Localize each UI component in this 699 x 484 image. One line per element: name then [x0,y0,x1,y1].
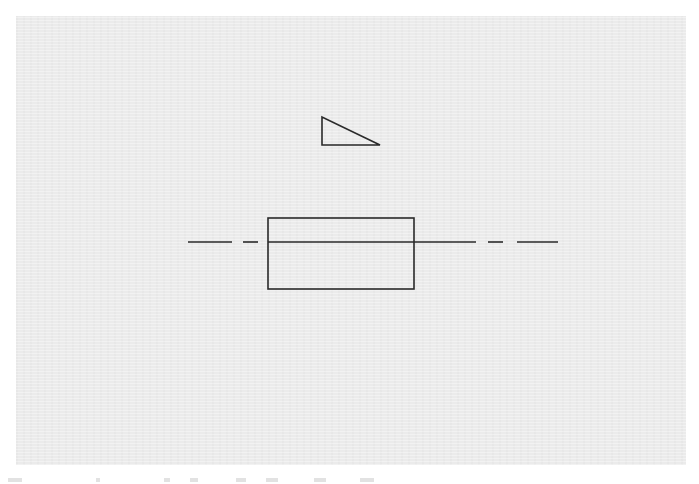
component-rectangle [268,218,414,289]
technical-drawing [0,0,699,484]
cropped-caption-marks [0,478,699,484]
roughness-triangle-symbol [322,117,380,145]
